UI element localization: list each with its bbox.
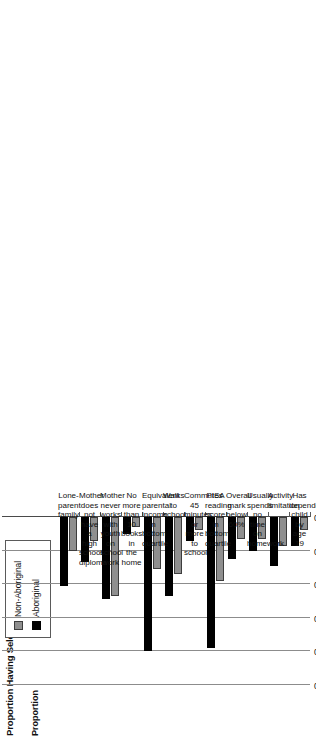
bar-aboriginal (60, 517, 68, 586)
tick-label-0.00: 0.00 (314, 513, 316, 523)
category-label: Equivalent parental income in bottom qua… (142, 491, 163, 548)
tick-label-0.20: 0.20 (314, 580, 316, 590)
legend-swatch-icon-aboriginal (32, 621, 41, 630)
category-label: Overall mark below 60% (226, 491, 247, 529)
category-label: Commutes 45 minutes or more to school (184, 491, 205, 558)
category-label: Usually spends no time on homework (247, 491, 268, 548)
tick-label-0.40: 0.40 (314, 647, 316, 657)
category-label: Mother does not have a high school diplo… (79, 491, 100, 567)
category-tick (310, 512, 311, 517)
category-label: PISA reading score in bottom quartile (205, 491, 226, 548)
category-axis: Lone- parent familyMother does not have … (58, 426, 310, 512)
category-label: Lone- parent family (58, 491, 79, 520)
category-label: Has dependent child by age 19 (289, 491, 310, 548)
category-label: Mother never works with youth on school … (100, 491, 121, 567)
bar-non-aboriginal (69, 517, 77, 551)
bar-aboriginal (165, 517, 173, 596)
tick-label-0.10: 0.10 (314, 547, 316, 557)
bar-group (58, 517, 79, 685)
legend-entry-non-aboriginal: Non-Aboriginal (13, 561, 23, 630)
category-label: No more than 10 books in the home (121, 491, 142, 567)
legend-label-aboriginal: Aboriginal (31, 579, 41, 617)
chart-legend: Non-Aboriginal Aboriginal (5, 540, 51, 638)
category-label: Activity limitation (268, 491, 289, 510)
tick-label-0.50: 0.50 (314, 681, 316, 691)
value-axis-title: Proportion (30, 690, 40, 736)
bar-non-aboriginal (174, 517, 182, 574)
legend-label-non-aboriginal: Non-Aboriginal (13, 561, 23, 617)
chart-figure: Proportion Having Select Characteristics… (0, 0, 316, 742)
category-label: Walks to school (163, 491, 184, 520)
tick-label-0.30: 0.30 (314, 614, 316, 624)
legend-swatch-icon-non-aboriginal (14, 621, 23, 630)
legend-entry-aboriginal: Aboriginal (31, 579, 41, 630)
